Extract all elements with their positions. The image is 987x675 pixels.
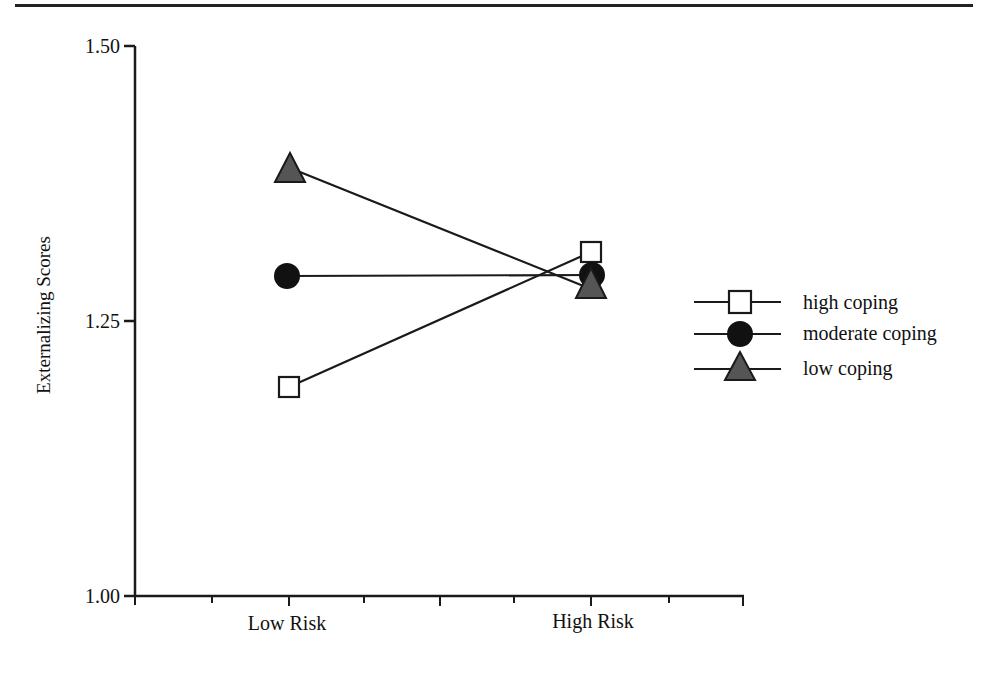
- high-coping-marker: [581, 242, 601, 262]
- triangle-icon: [725, 352, 755, 380]
- legend-label: high coping: [803, 291, 898, 314]
- series-lines: [287, 168, 592, 387]
- line-high-coping: [289, 252, 591, 387]
- line-low-coping: [290, 168, 591, 289]
- legend-item-low-coping: low coping: [694, 352, 892, 380]
- legend-label: low coping: [803, 357, 892, 380]
- x-axis: Low Risk High Risk: [134, 596, 744, 634]
- y-axis: 1.50 1.25 1.00 Externalizing Scores: [33, 35, 135, 607]
- x-category-label: Low Risk: [248, 612, 326, 634]
- line-moderate-coping: [287, 275, 592, 276]
- y-axis-title: Externalizing Scores: [33, 236, 54, 394]
- legend-item-moderate-coping: moderate coping: [694, 321, 937, 347]
- legend-item-high-coping: high coping: [694, 291, 898, 314]
- y-tick-label: 1.25: [85, 310, 120, 332]
- circle-filled-icon: [727, 321, 753, 347]
- y-tick-label: 1.00: [85, 585, 120, 607]
- line-chart: 1.50 1.25 1.00 Externalizing Scores Low …: [0, 0, 987, 675]
- y-tick-label: 1.50: [85, 35, 120, 57]
- legend-label: moderate coping: [803, 322, 937, 345]
- moderate-coping-marker: [274, 263, 300, 289]
- x-category-label: High Risk: [552, 610, 634, 633]
- legend: high coping moderate coping low coping: [694, 291, 937, 380]
- square-open-icon: [729, 291, 751, 313]
- low-coping-marker: [275, 153, 305, 182]
- high-coping-marker: [279, 377, 299, 397]
